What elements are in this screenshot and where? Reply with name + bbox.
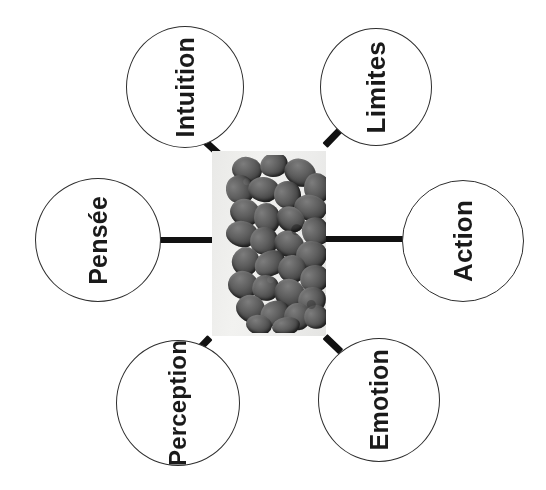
node-emotion[interactable]: Emotion [318,338,440,462]
node-label-emotion: Emotion [367,349,392,450]
node-limites[interactable]: Limites [320,28,432,146]
node-label-perception: Perception [166,340,190,466]
node-action[interactable]: Action [402,180,524,302]
central-photo-panel [212,151,326,336]
node-label-pensee: Pensée [86,196,111,285]
node-label-action: Action [450,200,476,282]
connector-pensee-center [155,237,217,243]
node-perception[interactable]: Perception [116,340,240,466]
connector-center-action [324,236,408,242]
grain-cluster-photo [226,155,326,333]
node-label-intuition: Intuition [173,37,198,137]
node-label-limites: Limites [363,41,389,133]
node-pensee[interactable]: Pensée [35,178,161,302]
node-intuition[interactable]: Intuition [126,26,244,148]
diagram-canvas: Intuition Limites Pensée Action Percepti… [0,0,546,490]
